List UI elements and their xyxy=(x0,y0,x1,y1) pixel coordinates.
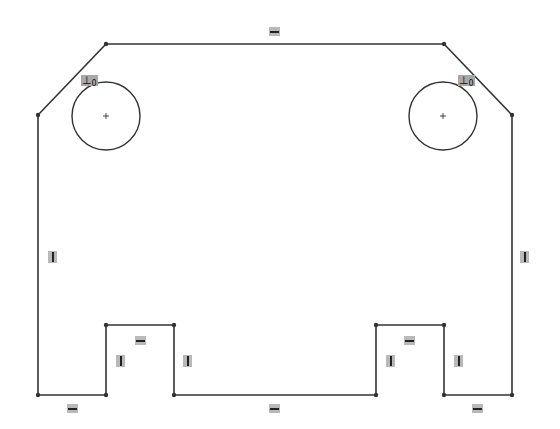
vertical-relation-icon[interactable] xyxy=(48,251,57,263)
vertical-relation-icon[interactable] xyxy=(454,355,463,367)
sketch-point[interactable] xyxy=(510,393,514,397)
sketch-point[interactable] xyxy=(374,323,378,327)
sketch-point[interactable] xyxy=(442,393,446,397)
sketch-point[interactable] xyxy=(442,323,446,327)
horizontal-relation-icon[interactable] xyxy=(269,27,280,36)
sketch-point[interactable] xyxy=(172,323,176,327)
sketch-point[interactable] xyxy=(36,393,40,397)
vertical-relation-icon[interactable] xyxy=(520,251,529,263)
horizontal-relation-icon[interactable] xyxy=(135,336,146,345)
tangent-subscript: 0 xyxy=(469,78,474,89)
sketch-lines xyxy=(38,44,512,395)
sketch-points xyxy=(36,42,514,397)
vertical-relation-icon[interactable] xyxy=(386,355,395,367)
sketch-point[interactable] xyxy=(172,393,176,397)
horizontal-relation-icon[interactable] xyxy=(472,404,483,413)
horizontal-relation-icon[interactable] xyxy=(404,336,415,345)
horizontal-relation-icon[interactable] xyxy=(269,404,280,413)
sketch-circles xyxy=(72,82,477,150)
sketch-point[interactable] xyxy=(442,42,446,46)
sketch-point[interactable] xyxy=(104,42,108,46)
horizontal-relation-icon[interactable] xyxy=(67,404,78,413)
center-mark-icon xyxy=(440,113,446,119)
tangent-symbol: ⊥ xyxy=(82,75,92,86)
vertical-relation-icon[interactable] xyxy=(183,355,192,367)
tangent-subscript: 0 xyxy=(92,78,97,89)
sketch-point[interactable] xyxy=(510,113,514,117)
sketch-line-chamfer-right[interactable] xyxy=(444,44,512,115)
vertical-relation-icon[interactable] xyxy=(116,355,125,367)
tangent-relation-icon[interactable]: ⊥0 xyxy=(81,75,98,86)
center-mark-icon xyxy=(103,113,109,119)
sketch-point[interactable] xyxy=(104,323,108,327)
sketch-point[interactable] xyxy=(104,393,108,397)
sketch-point[interactable] xyxy=(374,393,378,397)
sketch-point[interactable] xyxy=(36,113,40,117)
tangent-relation-icon[interactable]: ⊥0 xyxy=(458,75,475,86)
tangent-symbol: ⊥ xyxy=(459,75,469,86)
sketch-canvas[interactable] xyxy=(0,0,560,429)
